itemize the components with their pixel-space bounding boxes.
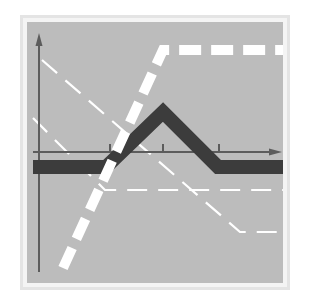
payoff-chart-icon [0,0,310,306]
